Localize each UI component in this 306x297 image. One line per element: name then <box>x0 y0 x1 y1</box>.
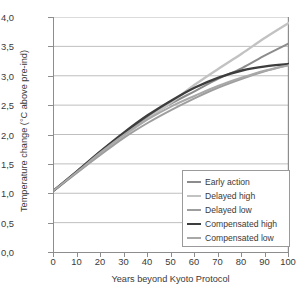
y-axis-title: Temperature change (°C above pre-ind) <box>19 11 29 251</box>
y-tick-label: 0,0 <box>1 247 14 258</box>
x-tick-label: 60 <box>189 256 199 267</box>
legend-swatch <box>187 195 201 197</box>
x-tick-label: 10 <box>71 256 81 267</box>
x-tick-label: 90 <box>259 256 269 267</box>
y-tick-label: 3,5 <box>1 41 14 52</box>
legend-label: Early action <box>205 178 250 187</box>
x-tick-label: 100 <box>280 256 296 267</box>
legend-item[interactable]: Delayed high <box>187 189 289 203</box>
legend-item[interactable]: Early action <box>187 175 289 189</box>
y-tick-label: 1,0 <box>1 188 14 199</box>
series-line <box>54 43 289 190</box>
x-tick-label: 40 <box>142 256 152 267</box>
legend-label: Delayed low <box>205 206 252 215</box>
legend-label: Compensated low <box>205 234 274 243</box>
chart-legend: Early actionDelayed highDelayed lowCompe… <box>182 170 290 247</box>
chart-figure: Temperature change (°C above pre-ind) 0,… <box>0 0 306 297</box>
x-tick-label: 0 <box>50 256 55 267</box>
legend-swatch <box>187 237 201 239</box>
y-tick-label: 4,0 <box>1 12 14 23</box>
y-tick-label: 0,5 <box>1 217 14 228</box>
y-tick-label: 2,0 <box>1 129 14 140</box>
legend-swatch <box>187 181 201 183</box>
legend-label: Delayed high <box>205 192 255 201</box>
x-tick-label: 80 <box>236 256 246 267</box>
x-tick-label: 30 <box>118 256 128 267</box>
legend-item[interactable]: Delayed low <box>187 203 289 217</box>
legend-swatch <box>187 209 201 211</box>
legend-item[interactable]: Compensated high <box>187 217 289 231</box>
legend-swatch <box>187 223 201 225</box>
y-tick-label: 3,0 <box>1 70 14 81</box>
x-tick-label: 70 <box>212 256 222 267</box>
x-tick-label: 20 <box>95 256 105 267</box>
x-axis-title: Years beyond Kyoto Protocol <box>53 274 288 284</box>
x-tick-label: 50 <box>165 256 175 267</box>
y-tick-label: 2,5 <box>1 100 14 111</box>
legend-item[interactable]: Compensated low <box>187 231 289 245</box>
y-tick-label: 1,5 <box>1 158 14 169</box>
legend-label: Compensated high <box>205 220 277 229</box>
